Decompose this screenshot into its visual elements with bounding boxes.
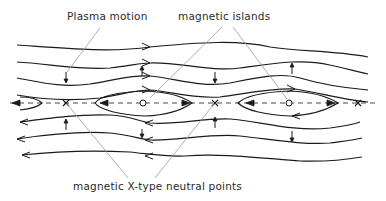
o-point-1 <box>140 100 146 106</box>
o-point-2 <box>286 100 292 106</box>
reconnection-diagram <box>0 0 386 201</box>
field-lines-upper <box>17 42 368 102</box>
leader-island-left <box>150 27 222 98</box>
label-magnetic-islands: magnetic islands <box>178 10 270 22</box>
label-plasma-motion: Plasma motion <box>67 10 148 22</box>
plasma-motion-arrows <box>64 63 294 142</box>
label-x-points: magnetic X-type neutral points <box>73 180 242 192</box>
flow-arrows-right <box>142 43 295 93</box>
field-lines-lower <box>17 115 362 161</box>
island-edge-left <box>20 97 42 110</box>
leader-xpoint-2 <box>155 104 214 178</box>
o-points <box>140 100 292 106</box>
